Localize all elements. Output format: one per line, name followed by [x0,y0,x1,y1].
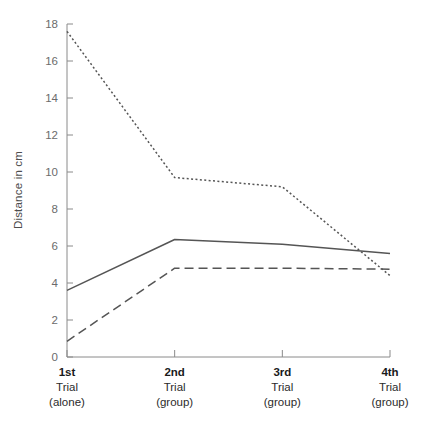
data-series-group [67,31,390,341]
x-category-label: Trial [56,381,78,393]
y-tick-label: 10 [45,166,58,178]
x-category-label: 3rd [273,366,291,378]
x-category-label: Trial [164,381,186,393]
x-category-label: Trial [379,381,401,393]
y-tick-label: 0 [52,351,58,363]
y-tick-label: 4 [52,277,59,289]
y-tick-label: 16 [45,55,58,67]
line-chart: Distance in cm 024681012141618 1stTrial(… [0,0,427,432]
axis-lines [67,24,390,357]
y-tick-label: 14 [45,92,58,104]
y-tick-label: 18 [45,18,58,30]
series-line-dotted-series [67,31,390,275]
x-category-label: (group) [156,396,193,408]
x-axis-ticks [67,350,390,357]
y-tick-label: 12 [45,129,58,141]
x-category-label: 1st [59,366,76,378]
y-tick-label: 8 [52,203,58,215]
x-axis-labels: 1stTrial(alone)2ndTrial(group)3rdTrial(g… [49,366,409,408]
x-category-label: Trial [271,381,293,393]
y-axis-ticks: 024681012141618 [45,18,73,363]
x-category-label: 2nd [164,366,184,378]
y-tick-label: 2 [52,314,58,326]
x-category-label: (group) [264,396,301,408]
series-line-dashed-series [67,268,390,341]
chart-canvas: 024681012141618 1stTrial(alone)2ndTrial(… [0,0,427,432]
x-category-label: (group) [371,396,408,408]
x-category-label: (alone) [49,396,85,408]
series-line-solid-series [67,240,390,291]
y-tick-label: 6 [52,240,58,252]
x-category-label: 4th [381,366,398,378]
